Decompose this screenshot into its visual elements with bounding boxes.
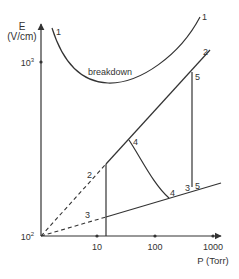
- x-tick-label-10: 10: [92, 242, 102, 252]
- line-2-dashed: [41, 164, 106, 236]
- x-tick-1000: [211, 234, 214, 237]
- point-3-lower-label: 3: [185, 183, 190, 193]
- y-tick-label-1000: 103: [21, 57, 35, 68]
- point-4-lower-label: 4: [170, 188, 175, 198]
- y-tick-label-100: 102: [21, 231, 35, 242]
- x-axis-label: P (Torr): [197, 255, 229, 266]
- curve-4: [129, 140, 169, 198]
- line-3-dashed: [41, 217, 106, 236]
- x-tick-label-100: 100: [147, 242, 162, 252]
- y-tick-1000: [39, 60, 42, 63]
- point-5-upper-label: 5: [195, 72, 200, 82]
- point-5-lower-label: 5: [195, 181, 200, 191]
- x-tick-100: [153, 234, 156, 237]
- discharge-diagram: E (V/cm) 103 102 10 100 1000 P (Torr) br…: [0, 0, 239, 279]
- line-3-solid: [106, 183, 221, 217]
- breakdown-label: breakdown: [88, 67, 132, 77]
- line-2-label-dashed: 2: [87, 170, 92, 180]
- x-tick-label-1000: 1000: [203, 242, 223, 252]
- x-tick-10: [95, 234, 98, 237]
- curve-1-label-left: 1: [56, 27, 61, 37]
- y-axis-label-units: (V/cm): [7, 31, 36, 42]
- line-3-label-dashed: 3: [85, 210, 90, 220]
- curve-1-label-right: 1: [202, 12, 207, 22]
- line-2-label-top: 2: [203, 47, 208, 57]
- point-4-upper-label: 4: [133, 137, 138, 147]
